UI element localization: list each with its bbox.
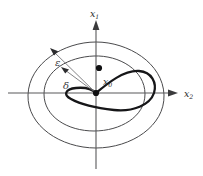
- radius-indicator-group: [50, 48, 96, 93]
- points-group: [93, 65, 102, 96]
- delta-label: δ: [63, 80, 69, 91]
- x1-axis-arrowhead: [93, 20, 100, 30]
- x1-axis-label-subscript: 1: [95, 13, 99, 20]
- initial-condition-label-subscript: 0: [108, 81, 112, 88]
- labels-group: x1 x2 ε δ x0: [55, 8, 193, 100]
- delta-radius-arrowhead: [61, 67, 69, 74]
- initial-condition-label: x0: [103, 76, 112, 88]
- epsilon-label: ε: [55, 57, 60, 68]
- x2-axis-arrowhead: [168, 90, 178, 97]
- stability-diagram: x1 x2 ε δ x0: [0, 0, 203, 176]
- initial-condition-dot: [96, 65, 102, 71]
- figure-root: x1 x2 ε δ x0: [0, 0, 203, 176]
- x1-axis-label: x1: [90, 8, 99, 20]
- x2-axis-label: x2: [184, 88, 193, 100]
- x2-axis-label-subscript: 2: [188, 93, 193, 100]
- origin-point-dot: [93, 90, 99, 96]
